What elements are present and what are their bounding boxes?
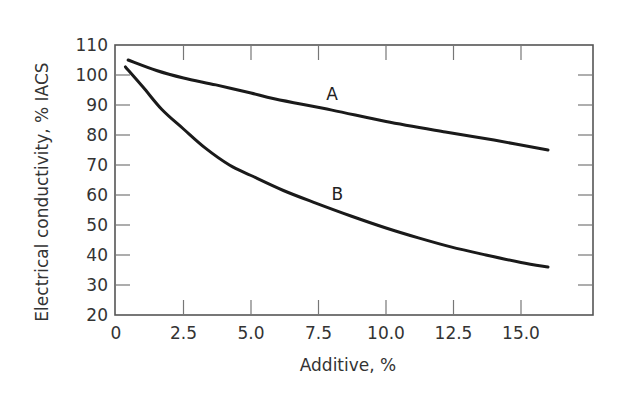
plot-frame (115, 45, 593, 315)
x-tick-label: 2.5 (170, 323, 197, 343)
x-tick-label: 7.5 (305, 323, 332, 343)
y-tick-label: 30 (86, 275, 108, 295)
curve-label-b: B (332, 184, 344, 204)
y-tick-label: 20 (86, 305, 108, 325)
x-axis-label: Additive, % (300, 355, 397, 375)
x-tick-label: 12.5 (435, 323, 473, 343)
x-tick-label: 5.0 (237, 323, 264, 343)
y-tick-label: 90 (86, 95, 108, 115)
y-tick-label: 70 (86, 155, 108, 175)
y-tick-label: 50 (86, 215, 108, 235)
y-tick-label: 40 (86, 245, 108, 265)
x-tick-label: 0 (111, 323, 122, 343)
y-axis-label: Electrical conductivity, % IACS (32, 62, 52, 321)
x-tick-label: 10.0 (367, 323, 405, 343)
curve-label-a: A (326, 84, 338, 104)
y-tick-label: 80 (86, 125, 108, 145)
y-tick-label: 110 (76, 35, 108, 55)
conductivity-chart: 02.55.07.510.012.515.0203040506070809010… (0, 0, 619, 395)
data-curves: AB (125, 60, 548, 267)
y-tick-label: 60 (86, 185, 108, 205)
y-tick-label: 100 (76, 65, 108, 85)
x-tick-label: 15.0 (502, 323, 540, 343)
plot-border (115, 45, 593, 315)
